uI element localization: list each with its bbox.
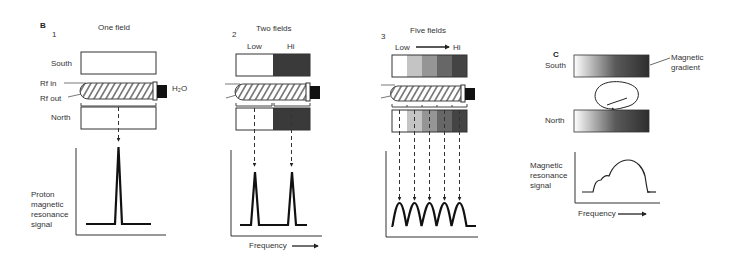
c-north-gradient-magnet bbox=[574, 110, 649, 132]
panel-c: C South Magnetic gradient North Magnetic… bbox=[530, 50, 703, 218]
sub2-signal-peaks bbox=[240, 172, 307, 225]
sub1-north-label: North bbox=[51, 113, 71, 122]
sub3-field-brackets bbox=[392, 104, 467, 107]
sub3-south-field-segment bbox=[437, 55, 452, 77]
sub2-south-magnet bbox=[236, 54, 310, 76]
rf-in-label: Rf in bbox=[40, 79, 56, 88]
sub2-north-magnet bbox=[236, 108, 310, 130]
sub1-south-label: South bbox=[51, 59, 72, 68]
sub3-hi-label: Hi bbox=[453, 43, 461, 52]
panel-b-label: B bbox=[40, 21, 46, 30]
sub3-south-field-segment bbox=[407, 55, 422, 77]
tube-cap-icon bbox=[157, 85, 167, 98]
sample-tube-coil bbox=[235, 83, 320, 101]
sub2-south-field-segment bbox=[236, 54, 273, 76]
rf-out-label: Rf out bbox=[40, 94, 62, 103]
sub2-xlabel: Frequency bbox=[249, 241, 287, 250]
c-north-label: North bbox=[545, 116, 565, 125]
sub1-ylabel-line1: Proton bbox=[31, 190, 55, 199]
sub3-south-field-segment bbox=[392, 55, 407, 77]
sub1-signal-peak bbox=[86, 147, 151, 224]
figure-canvas: B 1 One field South Rf in Rf out H₂O Nor… bbox=[0, 0, 739, 253]
sub3-south-field-segment bbox=[452, 55, 467, 77]
sub2-hi-label: Hi bbox=[287, 42, 295, 51]
sub3-title: Five fields bbox=[410, 26, 446, 35]
sample-tube-coil bbox=[80, 82, 167, 100]
h2o-label: H₂O bbox=[172, 84, 187, 93]
sub3-low-label: Low bbox=[395, 43, 410, 52]
sub1-ylabel-line4: signal bbox=[31, 220, 52, 229]
panel-b2: 2 Two fields Low Hi Frequency bbox=[225, 24, 322, 250]
sample-tube-coil bbox=[391, 85, 475, 102]
c-south-label: South bbox=[545, 61, 566, 70]
sub2-field-brackets bbox=[236, 103, 310, 106]
sub3-bracket bbox=[392, 104, 467, 107]
c-ylabel-line3: signal bbox=[530, 181, 551, 190]
sub1-title: One field bbox=[98, 23, 130, 32]
sub1-south-magnet bbox=[81, 52, 156, 74]
sub3-signal-peaks bbox=[393, 203, 477, 226]
sub1-ylabel-line2: magnetic bbox=[31, 200, 63, 209]
panel-b1: B 1 One field South Rf in Rf out H₂O Nor… bbox=[31, 21, 187, 235]
sub2-title: Two fields bbox=[256, 24, 292, 33]
panel-b3: 3 Five fields Low Hi bbox=[381, 26, 478, 237]
sub3-south-field-segment bbox=[422, 55, 437, 77]
c-signal-curve bbox=[582, 160, 650, 192]
sub1-number: 1 bbox=[52, 30, 57, 39]
sub2-south-field-segment bbox=[273, 54, 310, 76]
c-gradient-label-line2: gradient bbox=[671, 63, 701, 72]
tube-cap-icon bbox=[465, 88, 475, 100]
c-gradient-label-line1: Magnetic bbox=[671, 53, 703, 62]
tube-cap-icon bbox=[310, 86, 320, 99]
sub2-low-label: Low bbox=[247, 42, 262, 51]
c-south-gradient-magnet bbox=[574, 55, 649, 77]
sub3-south-magnet bbox=[392, 55, 467, 77]
panel-c-label: C bbox=[553, 50, 559, 59]
sub3-number: 3 bbox=[381, 32, 386, 41]
c-ylabel-line2: resonance bbox=[530, 171, 568, 180]
brain-icon bbox=[595, 82, 638, 110]
c-ylabel-line1: Magnetic bbox=[530, 161, 562, 170]
c-xlabel: Frequency bbox=[578, 209, 616, 218]
sub2-number: 2 bbox=[232, 30, 237, 39]
sub1-field-bracket bbox=[81, 103, 156, 106]
sub1-ylabel-line3: resonance bbox=[31, 210, 69, 219]
